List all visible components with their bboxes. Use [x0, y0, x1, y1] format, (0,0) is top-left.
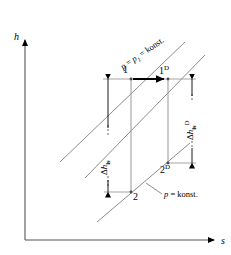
point-1D-label: 1D	[159, 65, 169, 76]
delta-h-is-D-sup: D	[183, 121, 190, 126]
delta-h-is-D-sub: is	[190, 125, 197, 129]
leader-line-p-konst	[146, 183, 162, 194]
dot-point-1	[130, 78, 133, 81]
delta-h-is-D-symbol: Δ	[185, 134, 195, 140]
delta-h-is-sub: is	[104, 160, 111, 164]
point-2D-sup: D	[165, 163, 170, 171]
point-2-text: 2	[133, 191, 138, 202]
point-1-label: 1	[123, 65, 128, 75]
delta-h-is-D-label: ΔhisD	[184, 121, 197, 140]
lower-isobar-line	[97, 143, 190, 222]
dot-point-1D	[167, 78, 170, 81]
point-1D-sup: D	[164, 64, 169, 72]
point-2-label: 2	[133, 192, 138, 202]
axes-group	[25, 40, 214, 240]
dot-point-2	[130, 191, 133, 194]
delta-h-is-label: Δhis	[100, 160, 111, 175]
lower-isobar-rest: = konst.	[168, 189, 198, 199]
delta-h-is-base: h	[99, 165, 109, 170]
delta-h-is-D-base: h	[185, 130, 195, 135]
lower-isobar-label: p = konst.	[164, 190, 198, 199]
y-axis-label: h	[14, 32, 19, 42]
point-2D-label: 2D	[160, 164, 170, 175]
x-axis-label: s	[221, 236, 225, 246]
point-1-text: 1	[123, 64, 128, 75]
delta-h-is-symbol: Δ	[99, 169, 109, 175]
hs-diagram-figure: h s p = p1 = konst. p = konst. 1 1D 2 2D…	[0, 0, 231, 255]
